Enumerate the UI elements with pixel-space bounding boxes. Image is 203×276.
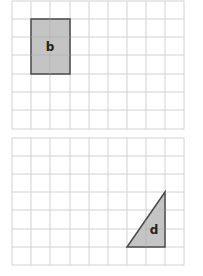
diagram-canvas: b d [0,0,203,276]
shape-d-label: d [150,223,159,237]
shape-b-rectangle: b [31,19,70,74]
shape-b-label: b [46,40,55,54]
